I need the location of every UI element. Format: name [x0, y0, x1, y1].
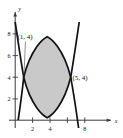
annotation-intersection-left: (1, 4)	[18, 33, 34, 41]
x-axis-label: x	[114, 117, 118, 124]
y-tick-label-2: 2	[8, 95, 11, 102]
x-tick-label-4: 4	[48, 125, 51, 132]
y-tick-label-8: 8	[8, 30, 11, 37]
graph-figure: 2 4 8 2 4 6 8 x y (1, 4) (5, 4)	[0, 0, 123, 138]
plot-canvas: 2 4 8 2 4 6 8 x y (1, 4) (5, 4)	[0, 0, 123, 138]
y-tick-label-6: 6	[8, 52, 11, 59]
x-tick-label-2: 2	[31, 125, 34, 132]
annotation-intersection-right: (5, 4)	[73, 74, 89, 82]
x-axis-arrowhead	[107, 118, 111, 122]
x-tick-label-8: 8	[83, 125, 86, 132]
shaded-region	[24, 37, 71, 118]
y-axis-label: y	[17, 5, 21, 12]
y-axis-arrowhead	[13, 12, 17, 16]
y-tick-label-4: 4	[8, 74, 11, 81]
